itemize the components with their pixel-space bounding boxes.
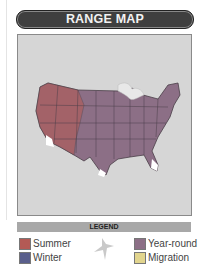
- legend-summer-label: Summer: [33, 238, 71, 250]
- year-round-swatch: [134, 238, 146, 250]
- legend-winter-label: Winter: [33, 252, 62, 264]
- range-map: [17, 34, 192, 216]
- page-edge-rule: [6, 0, 7, 220]
- legend-year-round-label: Year-round: [148, 238, 197, 250]
- summer-swatch: [19, 238, 31, 250]
- winter-swatch: [19, 252, 31, 264]
- bird-silhouette-icon: [92, 236, 118, 262]
- range-map-banner: RANGE MAP: [16, 10, 194, 29]
- legend-title: LEGEND: [17, 222, 191, 232]
- legend-migration-label: Migration: [148, 252, 189, 264]
- us-map-icon: [18, 35, 191, 215]
- migration-swatch: [134, 252, 146, 264]
- page-title: RANGE MAP: [17, 11, 193, 28]
